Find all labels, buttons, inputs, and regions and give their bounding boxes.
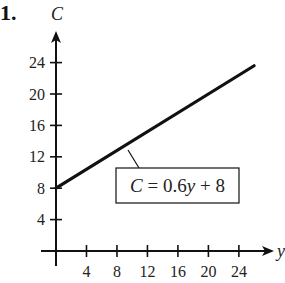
x-tick-label: 12: [139, 263, 155, 280]
line-chart: 48121620244812162024 C = 0.6y + 8 y C: [0, 0, 285, 283]
equation-label: C = 0.6y + 8: [130, 175, 225, 196]
y-tick-label: 16: [29, 117, 45, 134]
x-axis-label: y: [275, 241, 285, 261]
x-tick-label: 20: [200, 263, 216, 280]
y-axis-label: C: [51, 4, 64, 24]
y-tick-label: 24: [29, 54, 45, 71]
x-tick-label: 4: [82, 263, 90, 280]
leader-line: [128, 150, 139, 168]
x-tick-label: 24: [231, 263, 247, 280]
y-tick-label: 12: [29, 148, 45, 165]
y-tick-label: 20: [29, 86, 45, 103]
y-tick-label: 4: [37, 211, 45, 228]
annotation: C = 0.6y + 8: [116, 150, 239, 203]
x-tick-label: 8: [113, 263, 121, 280]
axes: [41, 33, 272, 266]
x-tick-label: 16: [170, 263, 186, 280]
y-tick-label: 8: [37, 180, 45, 197]
